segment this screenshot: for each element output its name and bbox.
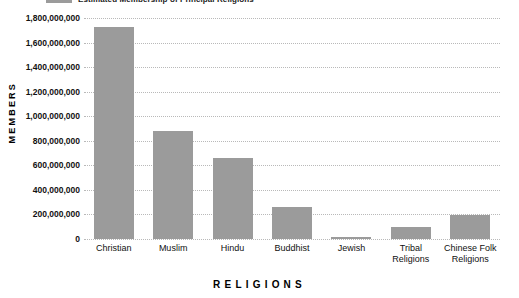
x-axis-category-label: Buddhist — [262, 243, 321, 265]
x-axis-category-labels: ChristianMuslimHinduBuddhistJewishTribal… — [84, 243, 500, 265]
bar-series — [84, 18, 500, 239]
y-axis-tick-label: 200,000,000 — [2, 209, 80, 219]
gridline — [84, 239, 500, 240]
x-axis-category-label: Chinese Folk Religions — [441, 243, 500, 265]
x-axis-category-label: Jewish — [322, 243, 381, 265]
y-axis-tick-label: 800,000,000 — [2, 136, 80, 146]
legend-swatch-icon — [46, 0, 72, 3]
y-axis-tick-label: 1,600,000,000 — [2, 38, 80, 48]
y-axis-tick-label: 1,800,000,000 — [2, 13, 80, 23]
bar-slot — [203, 18, 262, 239]
bar-slot — [262, 18, 321, 239]
y-axis-tick-label: 400,000,000 — [2, 185, 80, 195]
bar-slot — [143, 18, 202, 239]
y-axis-tick-labels: 1,800,000,0001,600,000,0001,400,000,0001… — [0, 18, 80, 239]
bar[interactable] — [153, 131, 193, 239]
bar[interactable] — [450, 215, 490, 239]
bar-slot — [381, 18, 440, 239]
x-axis-category-label: Tribal Religions — [381, 243, 440, 265]
x-axis-category-label: Hindu — [203, 243, 262, 265]
legend-label: Estimated Membership of Principal Religi… — [78, 0, 254, 4]
y-axis-tick-label: 1,200,000,000 — [2, 87, 80, 97]
bar[interactable] — [213, 158, 253, 239]
bar-slot — [84, 18, 143, 239]
x-axis-category-label: Christian — [84, 243, 143, 265]
x-axis-title: RELIGIONS — [0, 279, 519, 290]
bar[interactable] — [331, 237, 371, 239]
bar[interactable] — [391, 227, 431, 239]
bar-slot — [441, 18, 500, 239]
x-axis-category-label: Muslim — [143, 243, 202, 265]
y-axis-tick-label: 0 — [2, 234, 80, 244]
y-axis-tick-label: 1,000,000,000 — [2, 111, 80, 121]
bar[interactable] — [94, 27, 134, 239]
y-axis-tick-label: 600,000,000 — [2, 160, 80, 170]
chart-container: Estimated Membership of Principal Religi… — [0, 0, 519, 298]
chart-legend: Estimated Membership of Principal Religi… — [46, 0, 254, 4]
y-axis-tick-label: 1,400,000,000 — [2, 62, 80, 72]
bar-slot — [322, 18, 381, 239]
bar[interactable] — [272, 207, 312, 239]
